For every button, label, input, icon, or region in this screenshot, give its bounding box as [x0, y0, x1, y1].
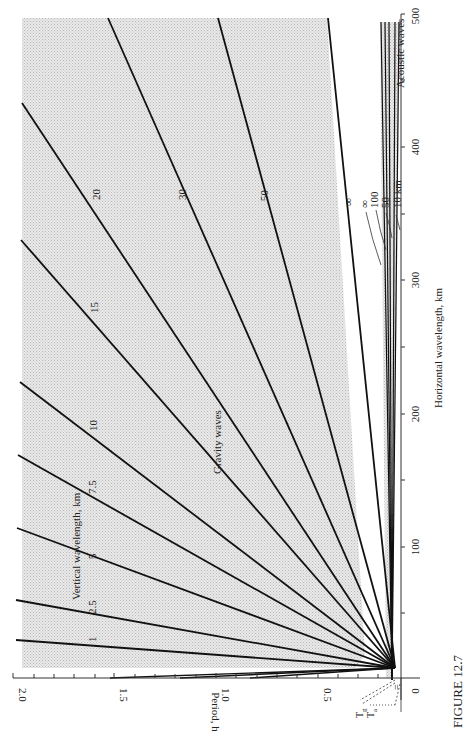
svg-text:0: 0 [409, 688, 421, 694]
wavelength-axis-label: Horizontal wavelength, km [432, 288, 444, 408]
svg-text:500: 500 [409, 7, 421, 24]
svg-text:1: 1 [86, 637, 98, 643]
svg-text:50: 50 [379, 197, 391, 209]
svg-text:50: 50 [258, 190, 270, 202]
period-axis-label: Period, h [210, 692, 222, 732]
svg-text:15: 15 [88, 302, 100, 314]
svg-text:g: g [360, 708, 368, 712]
origin-labels: T g T a = [354, 684, 402, 718]
gravity-waves-label: Gravity waves [211, 410, 223, 474]
acoustic-line-labels: ∞ 100 50 10 km [358, 180, 403, 208]
svg-text:a: a [371, 708, 379, 712]
svg-text:10: 10 [87, 420, 99, 432]
svg-text:30: 30 [176, 189, 188, 201]
acoustic-waves-label: Acoustic waves [394, 19, 406, 88]
origin-guides [360, 678, 401, 712]
vertical-wavelength-title: Vertical wavelength, km [70, 492, 82, 600]
svg-text:=: = [391, 684, 402, 690]
svg-text:7.5: 7.5 [86, 480, 98, 494]
svg-text:2.5: 2.5 [86, 600, 98, 614]
svg-text:1.5: 1.5 [118, 688, 130, 702]
svg-text:200: 200 [409, 405, 421, 422]
svg-text:2.0: 2.0 [17, 688, 29, 702]
svg-text:20: 20 [90, 189, 102, 201]
figure-chart: 2.0 1.5 1.0 0.5 Period, h 0 100 200 300 … [0, 0, 466, 734]
figure-caption: FIGURE 12.7 [450, 655, 465, 728]
period-tick-labels: 2.0 1.5 1.0 0.5 [17, 688, 334, 702]
svg-text:10 km: 10 km [391, 180, 403, 208]
svg-text:100: 100 [409, 538, 421, 555]
svg-text:300: 300 [409, 271, 421, 288]
svg-text:5: 5 [86, 553, 98, 559]
wavelength-tick-labels: 0 100 200 300 400 500 [409, 7, 421, 694]
svg-text:400: 400 [409, 138, 421, 155]
svg-text:∞: ∞ [342, 198, 354, 206]
svg-text:0.5: 0.5 [322, 688, 334, 702]
